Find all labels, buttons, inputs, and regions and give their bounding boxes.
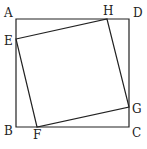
label-c: C [132, 126, 141, 140]
label-e: E [4, 34, 13, 48]
label-b: B [4, 124, 13, 138]
label-a: A [3, 6, 13, 20]
label-f: F [33, 128, 41, 142]
label-h: H [103, 4, 113, 18]
geometry-diagram: A H D E G B F C [0, 0, 147, 149]
label-d: D [133, 6, 143, 20]
label-g: G [132, 102, 142, 116]
inner-square-efgh [16, 19, 129, 127]
